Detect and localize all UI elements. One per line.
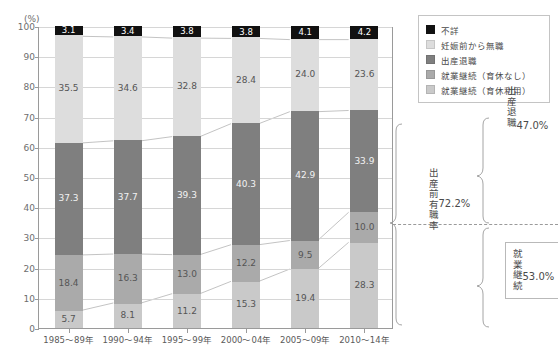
legend-swatch-ikukyu (426, 85, 435, 94)
bar-segment-fusho: 3.1 (55, 26, 83, 35)
bar-segment-value: 18.4 (59, 279, 79, 288)
bar-segment-mushoku: 23.6 (350, 39, 378, 110)
y-tick-label: 60 (24, 143, 35, 152)
bar-group: 15.312.240.328.43.8 (232, 26, 260, 328)
legend-label-mushoku: 妊娠前から無職 (441, 39, 504, 51)
bar-segment-nashi: 10.0 (350, 212, 378, 242)
x-tick-mark (128, 329, 129, 333)
bar-segment-ikukyu: 11.2 (173, 294, 201, 328)
bar-segment-value: 35.5 (59, 84, 79, 93)
connector-line-mushoku (82, 36, 113, 37)
y-tick-mark (35, 269, 39, 270)
bar-segment-ikukyu: 5.7 (55, 311, 83, 328)
gridline (39, 87, 392, 88)
plot-area: 01020304050607080901005.718.437.335.53.1… (38, 27, 393, 329)
bar-segment-value: 3.8 (180, 27, 194, 36)
x-tick-mark (187, 329, 188, 333)
legend-label-nashi: 就業継続（育休なし） (441, 69, 531, 81)
bar-segment-value: 10.0 (354, 223, 374, 232)
bar-segment-mushoku: 32.8 (173, 37, 201, 136)
legend-swatch-mushoku (426, 40, 435, 49)
legend-label-fusho: 不詳 (441, 24, 459, 36)
bar-segment-taishoku: 33.9 (350, 110, 378, 212)
bar-segment-fusho: 4.2 (350, 26, 378, 39)
bar-segment-value: 12.2 (236, 259, 256, 268)
bar-segment-mushoku: 34.6 (114, 36, 142, 140)
annotation-pre-birth-employment-rate-value: 72.2% (439, 198, 471, 209)
y-tick-mark (35, 329, 39, 330)
bar-segment-value: 16.3 (118, 274, 138, 283)
bar-segment-value: 11.2 (177, 307, 197, 316)
bar-segment-taishoku: 42.9 (291, 111, 319, 241)
annotation-birth-resignation-label: 出産退職 (506, 86, 516, 128)
y-tick-mark (35, 299, 39, 300)
bar-segment-mushoku: 35.5 (55, 35, 83, 142)
y-tick-label: 70 (24, 113, 35, 122)
bar-segment-ikukyu: 19.4 (291, 269, 319, 328)
bar-segment-fusho: 4.1 (291, 26, 319, 38)
bar-group: 8.116.337.734.63.4 (114, 26, 142, 328)
connector-line-nashi (82, 254, 113, 255)
legend-swatch-fusho (426, 25, 435, 34)
y-tick-label: 30 (24, 234, 35, 243)
bar-segment-taishoku: 37.3 (55, 143, 83, 256)
bar-segment-value: 34.6 (118, 84, 138, 93)
annotation-pre-birth-employment-rate: 出産前有職率 72.2% (428, 168, 470, 231)
connector-line-mushoku (141, 37, 172, 38)
gridline (39, 27, 392, 28)
gridline (39, 178, 392, 179)
connector-line-mushoku (259, 38, 290, 39)
bar-group: 19.49.542.924.04.1 (291, 26, 319, 328)
bar-segment-value: 8.1 (121, 311, 135, 320)
reference-dashed-line (393, 224, 558, 225)
x-tick-mark (246, 329, 247, 333)
bar-segment-value: 15.3 (236, 300, 256, 309)
gridline (39, 269, 392, 270)
gridline (39, 57, 392, 58)
x-axis-label: 2010～14年 (339, 336, 389, 345)
bar-segment-value: 33.9 (354, 157, 374, 166)
x-tick-mark (364, 329, 365, 333)
y-tick-mark (35, 208, 39, 209)
connector-line-taishoku (200, 124, 231, 137)
connector-line-ikukyu (259, 269, 290, 281)
bar-segment-taishoku: 37.7 (114, 140, 142, 254)
y-tick-label: 40 (24, 204, 35, 213)
y-tick-label: 20 (24, 264, 35, 273)
bar-segment-value: 13.0 (177, 270, 197, 279)
bar-segment-mushoku: 24.0 (291, 39, 319, 111)
annotation-employment-continuation-value: 53.0% (523, 271, 555, 282)
bar-segment-value: 24.0 (295, 70, 315, 79)
chart-page: ···· ······················· (%) 0102030… (0, 0, 558, 353)
legend-item-nashi: 就業継続（育休なし） (426, 67, 542, 82)
bar-segment-value: 3.4 (121, 27, 135, 36)
bar-group: 28.310.033.923.64.2 (350, 26, 378, 328)
y-tick-label: 10 (24, 294, 35, 303)
legend-item-taishoku: 出産退職 (426, 52, 542, 67)
connector-line-ikukyu (82, 303, 113, 310)
y-tick-mark (35, 178, 39, 179)
connector-line-nashi (259, 241, 290, 245)
bar-segment-value: 32.8 (177, 82, 197, 91)
legend-swatch-taishoku (426, 55, 435, 64)
bar-group: 5.718.437.335.53.1 (55, 26, 83, 328)
y-tick-mark (35, 87, 39, 88)
bar-segment-value: 19.4 (295, 294, 315, 303)
bar-segment-fusho: 3.8 (173, 26, 201, 37)
cropped-title-strip: ···· ······················· (0, 0, 558, 8)
connector-line-taishoku (318, 110, 349, 111)
bar-segment-value: 9.5 (298, 251, 312, 260)
bar-segment-value: 28.4 (236, 76, 256, 85)
legend-item-fusho: 不詳 (426, 22, 542, 37)
bar-segment-value: 40.3 (236, 180, 256, 189)
x-axis-label: 1990～94年 (103, 336, 153, 345)
gridline (39, 148, 392, 149)
bar-segment-taishoku: 40.3 (232, 123, 260, 245)
bar-segment-value: 5.7 (61, 315, 75, 324)
bar-segment-nashi: 16.3 (114, 254, 142, 303)
connector-line-taishoku (82, 141, 113, 143)
annotation-birth-resignation: 出産退職 47.0% (506, 86, 548, 131)
bar-segment-mushoku: 28.4 (232, 37, 260, 123)
y-tick-label: 80 (24, 83, 35, 92)
bar-segment-value: 28.3 (354, 281, 374, 290)
